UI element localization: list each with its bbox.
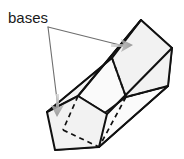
leader-line-to-back-base [48,27,120,45]
geometry-diagram: bases [0,0,184,159]
label-bases: bases [8,9,48,26]
leader-line-to-front-base [48,27,57,100]
pentagonal-prism-figure: bases [0,0,184,159]
